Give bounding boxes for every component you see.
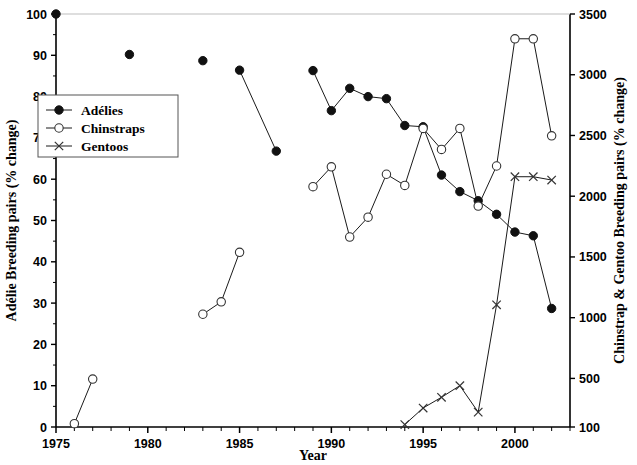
data-point-adélies <box>235 66 243 74</box>
y-tick-label-right: 500 <box>579 372 600 386</box>
y-tick-label-left: 40 <box>33 255 47 269</box>
data-point-chinstraps <box>309 182 317 190</box>
series-line-gentoos <box>405 177 552 425</box>
data-point-chinstraps <box>419 124 427 132</box>
y-tick-label-right: 3000 <box>579 68 607 82</box>
y-axis-title-right: Chinstrap & Gentoo Breeding pairs (% cha… <box>612 77 628 364</box>
y-tick-label-right: 1500 <box>579 250 607 264</box>
x-tick-label: 1995 <box>409 437 437 451</box>
y-axis-title-left: Adélie Breeding pairs (% change) <box>4 119 20 321</box>
data-point-chinstraps <box>529 35 537 43</box>
data-point-chinstraps <box>456 124 464 132</box>
data-point-adélies <box>437 171 445 179</box>
data-point-chinstraps <box>364 213 372 221</box>
data-point-chinstraps <box>217 298 225 306</box>
chart-figure: 0102030405060708090100100500100015002000… <box>0 0 637 465</box>
data-point-chinstraps <box>474 202 482 210</box>
data-point-adélies <box>401 121 409 129</box>
data-point-adélies <box>382 94 390 102</box>
data-point-adélies <box>272 147 280 155</box>
series-line-adélies <box>313 71 552 309</box>
data-point-chinstraps <box>401 181 409 189</box>
data-point-chinstraps <box>437 145 445 153</box>
y-tick-label-right: 2000 <box>579 190 607 204</box>
data-point-chinstraps <box>547 132 555 140</box>
y-tick-label-left: 20 <box>33 338 47 352</box>
data-point-adélies <box>456 187 464 195</box>
chart-svg: 0102030405060708090100100500100015002000… <box>0 0 637 465</box>
data-point-adélies <box>346 84 354 92</box>
legend-marker-adélies <box>55 106 63 114</box>
y-tick-label-left: 90 <box>33 49 47 63</box>
data-point-adélies <box>125 50 133 58</box>
data-point-chinstraps <box>511 35 519 43</box>
data-point-chinstraps <box>89 375 97 383</box>
x-tick-label: 1980 <box>134 437 162 451</box>
x-tick-label: 2000 <box>501 437 529 451</box>
data-point-chinstraps <box>492 162 500 170</box>
legend-label-adélies: Adélies <box>81 103 123 118</box>
data-point-adélies <box>52 10 60 18</box>
legend-label-gentoos: Gentoos <box>81 139 128 154</box>
data-point-chinstraps <box>199 310 207 318</box>
y-tick-label-left: 10 <box>33 379 47 393</box>
x-axis-title: Year <box>299 448 327 463</box>
data-point-chinstraps <box>346 233 354 241</box>
data-point-adélies <box>327 106 335 114</box>
x-tick-label: 1975 <box>42 437 70 451</box>
data-point-adélies <box>511 228 519 236</box>
legend-label-chinstraps: Chinstraps <box>81 121 145 136</box>
data-point-chinstraps <box>327 163 335 171</box>
y-tick-label-right: 2500 <box>579 129 607 143</box>
data-point-adélies <box>199 56 207 64</box>
data-point-adélies <box>364 92 372 100</box>
data-point-chinstraps <box>235 248 243 256</box>
series-line-chinstraps <box>313 39 552 237</box>
y-tick-label-left: 0 <box>40 421 47 435</box>
data-point-chinstraps <box>382 170 390 178</box>
data-point-adélies <box>529 232 537 240</box>
y-tick-label-left: 100 <box>26 8 47 22</box>
y-tick-label-right: 1000 <box>579 311 607 325</box>
y-tick-label-left: 30 <box>33 297 47 311</box>
y-tick-label-left: 60 <box>33 173 47 187</box>
y-tick-label-right: 100 <box>579 421 600 435</box>
data-point-chinstraps <box>70 419 78 427</box>
y-tick-label-left: 50 <box>33 214 47 228</box>
series-line-chinstraps <box>74 379 92 424</box>
series-line-adélies <box>240 70 277 151</box>
data-point-adélies <box>309 66 317 74</box>
data-point-adélies <box>492 210 500 218</box>
x-tick-label: 1985 <box>226 437 254 451</box>
data-point-adélies <box>547 304 555 312</box>
y-tick-label-right: 3500 <box>579 8 607 22</box>
legend-marker-chinstraps <box>55 124 63 132</box>
